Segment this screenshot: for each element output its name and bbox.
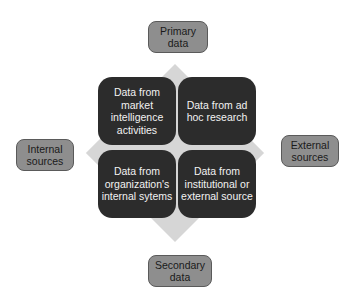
- quadrant-text: Data from ad hoc research: [181, 99, 253, 124]
- label-secondary-data: Secondary data: [148, 255, 212, 287]
- label-text: Secondary data: [149, 259, 211, 283]
- label-text: Internal sources: [17, 143, 73, 167]
- label-text: Primary data: [149, 25, 207, 49]
- label-text: External sources: [282, 139, 338, 163]
- label-internal-sources: Internal sources: [16, 139, 74, 171]
- label-primary-data: Primary data: [148, 21, 208, 53]
- label-external-sources: External sources: [281, 135, 339, 167]
- quadrant-top-right: Data from ad hoc research: [178, 77, 256, 145]
- quadrant-bottom-right: Data from institutional or external sour…: [178, 150, 256, 218]
- quadrant-bottom-left: Data from organization's internal sytems: [98, 150, 176, 218]
- quadrant-text: Data from institutional or external sour…: [181, 165, 253, 203]
- quadrant-text: Data from market intelligence activities: [101, 86, 173, 136]
- quadrant-text: Data from organization's internal sytems: [101, 165, 173, 203]
- quadrant-top-left: Data from market intelligence activities: [98, 77, 176, 145]
